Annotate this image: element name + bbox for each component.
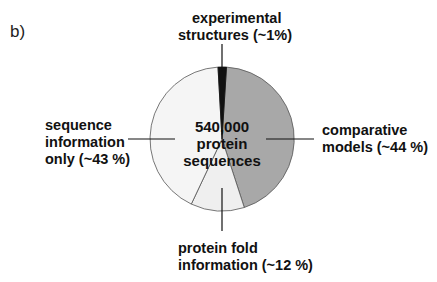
label-comparative: comparative models (~44 %) xyxy=(322,122,428,156)
center-text: 540,000 protein sequences xyxy=(172,118,272,169)
label-sequence: sequence information only (~43 %) xyxy=(45,117,130,168)
label-experimental: experimental structures (~1%) xyxy=(178,10,292,44)
label-fold: protein fold information (~12 %) xyxy=(178,240,313,274)
